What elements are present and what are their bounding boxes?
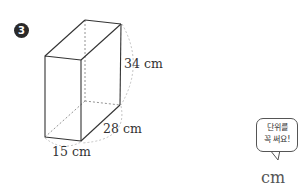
hint-text: 단위를 꼭 써요! [257, 122, 297, 146]
answer-unit: cm [261, 168, 285, 187]
hint-line-2: 꼭 써요! [257, 134, 297, 146]
width-label: 15 cm [52, 144, 91, 159]
problem-number-badge: 3 [14, 23, 29, 38]
rectangular-prism-figure [0, 0, 303, 191]
depth-label: 28 cm [103, 121, 142, 136]
hint-line-1: 단위를 [257, 122, 297, 134]
height-label: 34 cm [124, 56, 163, 71]
